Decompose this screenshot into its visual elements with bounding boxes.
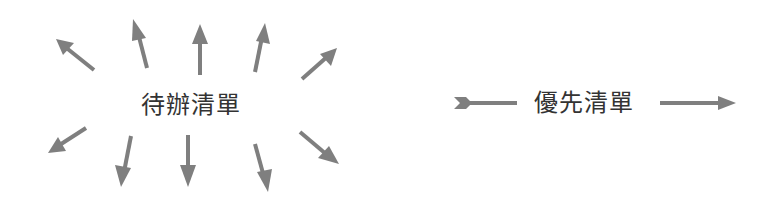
arrow-up-slight-right-icon <box>255 23 270 72</box>
arrow-up-left-icon <box>56 39 94 70</box>
arrow-down-right-icon <box>300 132 339 164</box>
arrow-up-icon <box>192 24 208 75</box>
arrow-down-slight-left-icon <box>115 136 131 187</box>
arrow-down-slight-right-icon <box>255 144 272 192</box>
arrow-down-left-icon <box>48 128 86 153</box>
arrow-up-right-icon <box>302 48 337 79</box>
arrow-head-icon <box>660 96 736 110</box>
diagram-canvas <box>0 0 783 209</box>
arrow-up-slight-left-icon <box>132 19 147 68</box>
arrow-tail-icon <box>454 97 517 109</box>
priority-list-label: 優先清單 <box>534 91 634 115</box>
todo-list-label: 待辦清單 <box>141 93 241 117</box>
arrow-down-icon <box>180 135 196 187</box>
